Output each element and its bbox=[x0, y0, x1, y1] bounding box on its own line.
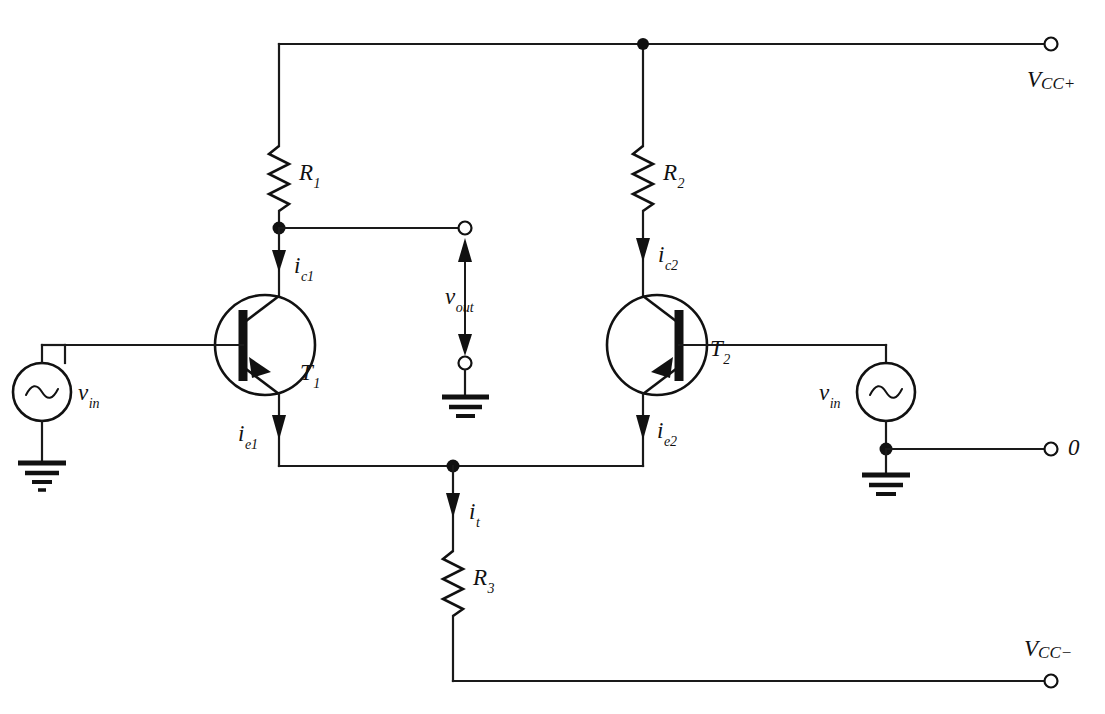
ground-left bbox=[18, 463, 66, 490]
source-vin-right bbox=[857, 345, 1058, 494]
resistor-r2 bbox=[633, 146, 653, 211]
current-ic1-arrowhead bbox=[272, 250, 286, 272]
measurement-vout bbox=[442, 238, 489, 416]
source-vin-right-sine bbox=[870, 386, 902, 398]
current-it-arrowhead bbox=[446, 493, 460, 518]
rail-vcc-minus bbox=[453, 675, 1058, 688]
source-vin-left-sine bbox=[26, 386, 58, 398]
label-r1: R1 bbox=[299, 161, 320, 187]
terminal-vout-top[interactable] bbox=[459, 222, 472, 235]
label-vout: vout bbox=[445, 285, 473, 311]
resistor-r2-zigzag bbox=[633, 146, 653, 211]
label-vin-left: vin bbox=[78, 381, 99, 407]
source-vin-left bbox=[13, 345, 71, 490]
tail-node-group bbox=[279, 460, 643, 473]
current-it bbox=[446, 466, 460, 551]
junction-dot-vcc-rail bbox=[637, 38, 649, 50]
transistor-t1-emitter-arrow bbox=[249, 357, 271, 378]
label-it: it bbox=[469, 500, 479, 526]
current-ie2 bbox=[636, 394, 650, 466]
transistor-t1-collector-lead bbox=[246, 296, 279, 321]
transistor-t2 bbox=[607, 295, 886, 395]
terminal-vcc-minus-circle[interactable] bbox=[1045, 675, 1058, 688]
ground-right bbox=[862, 475, 910, 494]
label-ic1: ic1 bbox=[294, 254, 314, 280]
transistor-t2-emitter-arrow bbox=[651, 357, 673, 378]
current-ic2 bbox=[636, 211, 650, 296]
vout-arrowhead-up bbox=[458, 238, 472, 262]
vout-arrowhead-down bbox=[458, 334, 472, 356]
label-r3: R3 bbox=[473, 566, 494, 592]
terminal-vcc-plus-circle[interactable] bbox=[1045, 38, 1058, 51]
rail-vcc-plus bbox=[279, 38, 1058, 147]
current-ic2-arrowhead bbox=[636, 238, 650, 262]
schematic-canvas: VCC+ VCC− 0 R1 R2 R3 T1 T2 ic1 ic2 ie1 i… bbox=[0, 0, 1105, 714]
terminal-vout-bottom[interactable] bbox=[459, 357, 472, 370]
label-vcc-minus: VCC− bbox=[1024, 637, 1072, 660]
resistor-r3-zigzag bbox=[443, 551, 463, 616]
label-r2: R2 bbox=[663, 161, 684, 187]
resistor-r1-zigzag bbox=[269, 146, 289, 211]
circuit-diagram bbox=[0, 0, 1105, 714]
resistor-r1 bbox=[269, 146, 289, 228]
label-t2: T2 bbox=[710, 337, 730, 363]
label-vcc-plus: VCC+ bbox=[1027, 68, 1075, 91]
current-ie2-arrowhead bbox=[636, 415, 650, 440]
label-ic2: ic2 bbox=[658, 243, 678, 269]
resistor-r3 bbox=[443, 551, 463, 681]
label-terminal-zero: 0 bbox=[1068, 436, 1080, 459]
ground-output bbox=[442, 397, 489, 416]
transistor-t2-collector-lead bbox=[643, 296, 676, 321]
transistor-t1 bbox=[65, 295, 315, 395]
label-t1: T1 bbox=[300, 361, 320, 387]
terminal-zero-circle[interactable] bbox=[1045, 443, 1058, 456]
label-ie2: ie2 bbox=[657, 419, 677, 445]
current-ie1 bbox=[272, 394, 286, 466]
current-ie1-arrowhead bbox=[272, 415, 286, 440]
current-ic1 bbox=[272, 228, 286, 296]
label-vin-right: vin bbox=[819, 381, 840, 407]
label-ie1: ie1 bbox=[238, 422, 258, 448]
